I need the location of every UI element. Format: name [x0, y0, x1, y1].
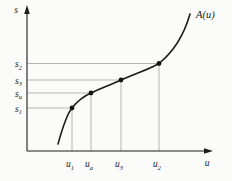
curve-label: A(u) [195, 9, 215, 21]
x-tick-ua-sub: a [90, 164, 93, 171]
x-tick-label-u1: u1 [66, 159, 74, 171]
y-tick-s1-sub: 1 [19, 108, 22, 115]
x-tick-labels: u1 ua u3 u2 [66, 159, 162, 171]
point-u3 [119, 78, 124, 83]
point-u2 [157, 61, 162, 66]
y-axis-title: s [14, 5, 18, 15]
y-tick-sa-sub: a [19, 93, 22, 100]
x-axis-arrowhead-icon [204, 148, 213, 154]
x-tick-u3-sub: 3 [119, 164, 124, 171]
x-tick-label-u3: u3 [115, 159, 124, 171]
x-tick-label-ua: ua [85, 159, 93, 171]
y-tick-label-s3: s3 [15, 76, 23, 88]
y-tick-labels: s2 s3 sa s1 [15, 59, 23, 115]
curve-A-of-u [58, 14, 190, 144]
x-axis-title: u [205, 158, 210, 168]
y-tick-label-s2: s2 [15, 59, 23, 71]
point-ua [89, 91, 94, 96]
y-tick-s2-sub: 2 [19, 64, 23, 71]
x-tick-u2-sub: 2 [158, 164, 162, 171]
y-tick-label-s1: s1 [15, 104, 22, 116]
y-axis-arrowhead-icon [24, 5, 30, 14]
x-tick-label-u2: u2 [153, 159, 162, 171]
x-tick-u1-sub: 1 [71, 164, 74, 171]
figure-canvas: s u A(u) s2 s3 sa s1 u1 ua u3 u2 [0, 0, 232, 181]
guide-lines [27, 64, 159, 152]
y-tick-s3-sub: 3 [18, 80, 23, 87]
point-u1 [70, 106, 75, 111]
y-tick-label-sa: sa [15, 89, 22, 101]
